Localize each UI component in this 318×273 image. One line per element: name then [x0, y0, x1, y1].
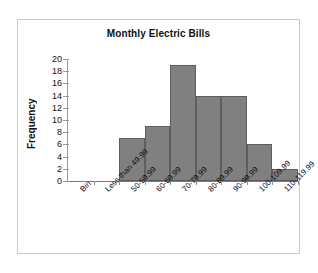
y-axis-tickmark [63, 169, 69, 170]
x-axis-tickmark [94, 181, 95, 185]
chart-title: Monthly Electric Bills [18, 28, 299, 39]
y-axis-tickmark [63, 157, 69, 158]
x-axis-tickmark [247, 181, 248, 185]
bar-slot [196, 59, 222, 181]
x-axis-tickmark [272, 181, 273, 185]
y-axis-tickmark [63, 120, 69, 121]
y-axis-tick-label: 14 [52, 91, 62, 100]
y-axis-tickmark [63, 83, 69, 84]
y-axis-tick-label: 0 [57, 177, 62, 186]
bar-slot [247, 59, 273, 181]
bar-slot [94, 59, 120, 181]
y-axis-tickmark [63, 59, 69, 60]
y-axis-tick-labels: 02468101214161820 [40, 56, 64, 180]
chart-frame: Monthly Electric Bills Frequency 0246810… [17, 19, 300, 254]
y-axis-tick-label: 10 [52, 116, 62, 125]
y-axis-tick-label: 2 [57, 164, 62, 173]
y-axis-tick-label: 4 [57, 152, 62, 161]
bar[interactable] [170, 65, 196, 181]
x-axis-tickmark [221, 181, 222, 185]
plot-area [68, 59, 298, 181]
x-axis-tickmark [119, 181, 120, 185]
bar-slot [68, 59, 94, 181]
x-axis-tickmark [145, 181, 146, 185]
bar-slot [145, 59, 171, 181]
y-axis-tick-label: 8 [57, 128, 62, 137]
bar-slot [170, 59, 196, 181]
y-axis-tick-label: 18 [52, 67, 62, 76]
y-axis-tick-label: 20 [52, 55, 62, 64]
x-axis-tickmark [170, 181, 171, 185]
y-axis-tick-label: 16 [52, 79, 62, 88]
y-axis-tickmark [63, 96, 69, 97]
x-axis-tick-labels: BinLess than 49.9950-59.9960-69.9970-79.… [18, 186, 318, 273]
bar-slot [221, 59, 247, 181]
y-axis-tickmark [63, 144, 69, 145]
y-axis-tickmark [63, 132, 69, 133]
y-axis-title: Frequency [24, 76, 38, 172]
y-axis-tick-label: 6 [57, 140, 62, 149]
x-axis-tickmark [196, 181, 197, 185]
x-axis-tickmark [298, 181, 299, 185]
y-axis-tickmark [63, 181, 69, 182]
y-axis-tickmark [63, 71, 69, 72]
y-axis-tickmark [63, 108, 69, 109]
y-axis-tick-label: 12 [52, 103, 62, 112]
